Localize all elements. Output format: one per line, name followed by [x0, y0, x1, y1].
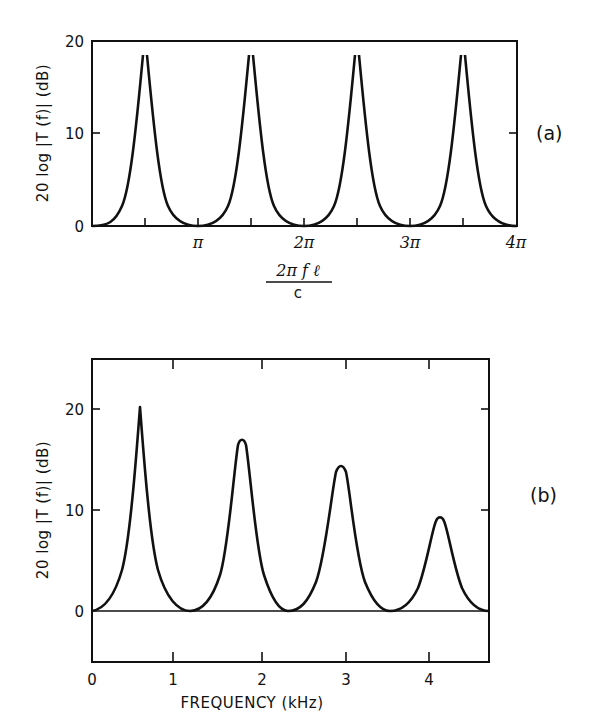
panel-b-xtick-label-4: 4 [424, 671, 434, 689]
panel-b-xtick-label-2: 2 [257, 671, 267, 689]
panel-b-curve [92, 407, 489, 611]
panel-b-ytick-label-10: 10 [65, 502, 84, 520]
panel-b-xtick-label-3: 3 [341, 671, 351, 689]
panel-a-ytick-label-10: 10 [65, 125, 84, 143]
panel-a-ytick-label-0: 0 [74, 218, 84, 236]
panel-b-xtick-label-1: 1 [168, 671, 178, 689]
panel-b-ytick-label-20: 20 [65, 401, 84, 419]
panel-a-ytick-label-20: 20 [65, 33, 84, 51]
panel-a-xlabel-numerator: 2π f ℓ [275, 261, 320, 280]
panel-a-xtick-label-pi: π [192, 233, 204, 252]
panel-b-ylabel: 20 log |T (f)| (dB) [34, 441, 52, 579]
panel-b-label: (b) [530, 484, 557, 506]
panel-a: 20 10 0 π 2π 3π 4π 2π f ℓ c 20 log |T (f… [34, 33, 562, 302]
panel-a-xtick-label-3pi: 3π [400, 233, 421, 252]
panel-a-xtick-label-2pi: 2π [293, 233, 315, 252]
panel-b-ytick-label-0: 0 [74, 603, 84, 621]
panel-b-xtick-label-0: 0 [87, 671, 97, 689]
figure: 20 10 0 π 2π 3π 4π 2π f ℓ c 20 log |T (f… [0, 0, 594, 716]
panel-a-curve [92, 55, 517, 226]
panel-b-frame [92, 359, 489, 662]
panel-b: 20 10 0 0 1 2 3 4 FREQUENCY (kHz) 20 log… [34, 359, 557, 712]
panel-a-ylabel: 20 log |T (f)| (dB) [34, 64, 52, 202]
panel-b-xlabel: FREQUENCY (kHz) [180, 694, 323, 712]
panel-a-xtick-label-4pi: 4π [505, 233, 527, 252]
panel-a-xlabel-denominator: c [294, 284, 303, 302]
panel-a-label: (a) [536, 122, 562, 144]
